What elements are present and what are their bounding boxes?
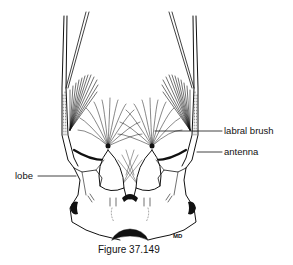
figure-caption: Figure 37.149: [98, 244, 160, 255]
right-antenna: [162, 12, 198, 168]
label-lobe: lobe: [15, 171, 33, 181]
left-palatal-lobe: [99, 150, 124, 191]
right-palatal-lobe: [136, 150, 161, 191]
left-antenna: [62, 12, 98, 168]
artist-initials: MD: [173, 233, 182, 239]
label-antenna: antenna: [224, 147, 258, 157]
label-labral-brush: labral brush: [224, 126, 274, 136]
